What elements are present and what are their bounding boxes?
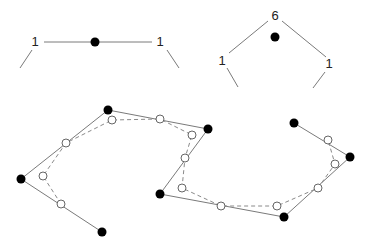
refined-point xyxy=(188,131,196,139)
subdivision-curve xyxy=(17,106,355,237)
weight-label-right: 1 xyxy=(156,34,163,49)
refined-point xyxy=(62,139,70,147)
refined-point xyxy=(331,160,339,168)
control-point xyxy=(104,106,113,115)
refined-point xyxy=(57,200,65,208)
weight-label-right: 1 xyxy=(325,56,332,71)
upper-left-line xyxy=(229,21,268,53)
weight-label-left: 1 xyxy=(31,34,38,49)
control-point xyxy=(280,213,289,222)
subdivision-diagram: 1 1 6 1 1 xyxy=(0,0,370,248)
lower-right-line xyxy=(313,72,325,88)
stencil-vertex: 6 1 1 xyxy=(218,8,332,88)
control-point xyxy=(17,175,26,184)
refined-point xyxy=(217,202,225,210)
edge-new-point xyxy=(91,38,100,47)
control-point xyxy=(204,125,213,134)
lower-left-line xyxy=(227,68,238,87)
refined-point xyxy=(324,136,332,144)
stencil-edge: 1 1 xyxy=(20,34,179,68)
vertex-new-point xyxy=(271,33,280,42)
control-point xyxy=(98,228,107,237)
weight-label-top: 6 xyxy=(271,8,278,23)
right-slant-line xyxy=(167,50,179,68)
weight-label-left: 1 xyxy=(218,53,225,68)
refined-point xyxy=(156,115,164,123)
refined-point xyxy=(108,116,116,124)
refined-point xyxy=(273,202,281,210)
left-slant-line xyxy=(20,50,32,68)
upper-right-line xyxy=(282,21,326,57)
control-point xyxy=(156,190,165,199)
refined-point xyxy=(181,154,189,162)
control-point xyxy=(346,153,355,162)
refined-point xyxy=(314,184,322,192)
control-polygon xyxy=(21,110,350,232)
refined-point xyxy=(178,184,186,192)
refined-point xyxy=(39,172,47,180)
control-point xyxy=(290,119,299,128)
